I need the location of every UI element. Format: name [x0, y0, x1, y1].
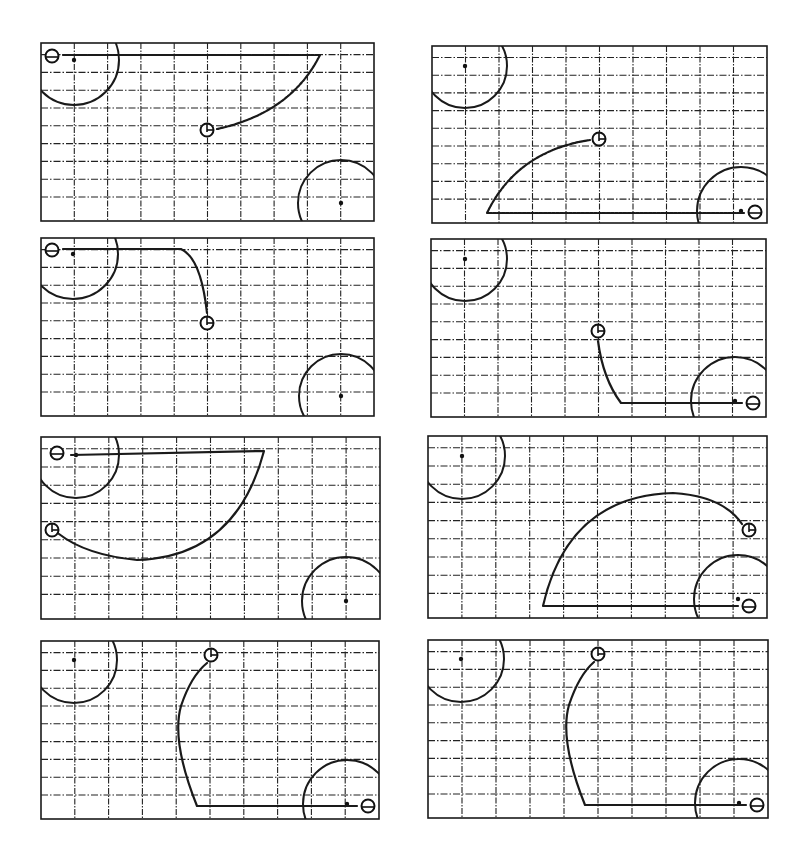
- obstacle-center-dot: [72, 658, 76, 662]
- start-marker-icon: [51, 447, 64, 460]
- panel-canvas: [41, 641, 379, 819]
- start-marker-icon: [46, 50, 59, 63]
- obstacle-center-dot: [339, 201, 343, 205]
- panel-canvas: [428, 436, 767, 618]
- goal-marker-icon: [592, 648, 605, 661]
- goal-marker-icon: [593, 133, 606, 146]
- panel-canvas: [428, 640, 768, 818]
- start-marker-icon: [743, 600, 756, 613]
- obstacle-center-dot: [460, 454, 464, 458]
- obstacle-center-dot: [459, 657, 463, 661]
- panel-6: [428, 436, 767, 618]
- start-marker-icon: [46, 244, 59, 257]
- start-marker-icon: [362, 800, 375, 813]
- start-marker-icon: [747, 397, 760, 410]
- start-marker-icon: [749, 206, 762, 219]
- obstacle-center-dot: [463, 64, 467, 68]
- panel-canvas: [41, 43, 374, 221]
- panel-canvas: [432, 46, 767, 223]
- goal-marker-icon: [743, 524, 756, 537]
- panel-2: [432, 46, 767, 223]
- obstacle-center-dot: [736, 597, 740, 601]
- panel-canvas: [41, 238, 374, 416]
- panel-1: [41, 43, 374, 221]
- obstacle-center-dot: [344, 599, 348, 603]
- start-marker-icon: [751, 799, 764, 812]
- panel-3: [41, 238, 374, 416]
- obstacle-center-dot: [339, 394, 343, 398]
- obstacle-center-dot: [71, 252, 75, 256]
- panel-8: [428, 640, 768, 818]
- obstacle-center-dot: [463, 257, 467, 261]
- goal-marker-icon: [205, 649, 218, 662]
- goal-marker-icon: [201, 124, 214, 137]
- panel-canvas: [431, 239, 766, 417]
- obstacle-center-dot: [72, 58, 76, 62]
- goal-marker-icon: [592, 325, 605, 338]
- goal-marker-icon: [46, 524, 59, 537]
- goal-marker-icon: [201, 317, 214, 330]
- panel-4: [431, 239, 766, 417]
- panel-5: [41, 437, 380, 619]
- panel-canvas: [41, 437, 380, 619]
- panel-7: [41, 641, 379, 819]
